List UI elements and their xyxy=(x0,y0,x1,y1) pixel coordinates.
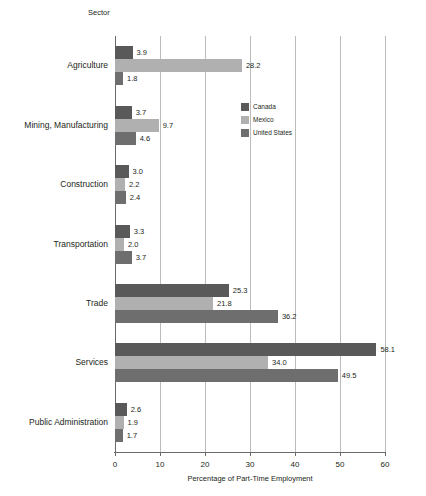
bar-value-label: 2.0 xyxy=(128,238,138,251)
bar-value-label: 49.5 xyxy=(342,369,357,382)
bar-mexico xyxy=(115,416,124,429)
gridline xyxy=(340,36,341,452)
bar-united-states xyxy=(115,191,126,204)
x-axis-tick xyxy=(295,452,296,456)
bar-mexico xyxy=(115,59,242,72)
legend-swatch-icon xyxy=(241,129,249,137)
bar-value-label: 3.7 xyxy=(136,251,146,264)
bar-mexico xyxy=(115,238,124,251)
category-label: Trade xyxy=(86,297,108,310)
legend-item[interactable]: Canada xyxy=(241,101,309,112)
bar-value-label: 3.7 xyxy=(136,106,146,119)
category-label: Mining, Manufacturing xyxy=(24,119,108,132)
x-axis-tick-label: 0 xyxy=(113,460,117,469)
bar-mexico xyxy=(115,356,268,369)
part-time-employment-bar-chart: Sector 0102030405060Percentage of Part-T… xyxy=(0,0,426,496)
bar-value-label: 2.4 xyxy=(130,191,140,204)
bar-mexico xyxy=(115,178,125,191)
x-axis-tick-label: 30 xyxy=(246,460,255,469)
bar-value-label: 9.7 xyxy=(163,119,173,132)
bar-canada xyxy=(115,106,132,119)
bar-canada xyxy=(115,403,127,416)
bar-mexico xyxy=(115,119,159,132)
x-axis-tick-label: 40 xyxy=(291,460,300,469)
x-axis-tick xyxy=(160,452,161,456)
bar-value-label: 36.2 xyxy=(282,310,297,323)
legend-swatch-icon xyxy=(241,103,249,111)
bar-value-label: 3.9 xyxy=(137,46,147,59)
y-axis-title: Sector xyxy=(88,8,110,17)
chart-legend: CanadaMexicoUnited States xyxy=(241,101,309,140)
legend-item[interactable]: Mexico xyxy=(241,114,309,125)
gridline xyxy=(295,36,296,452)
gridline xyxy=(160,36,161,452)
bar-canada xyxy=(115,46,133,59)
bar-value-label: 21.8 xyxy=(217,297,232,310)
bar-value-label: 58.1 xyxy=(380,343,395,356)
bar-value-label: 1.8 xyxy=(127,72,137,85)
bar-united-states xyxy=(115,369,338,382)
bar-canada xyxy=(115,284,229,297)
bar-united-states xyxy=(115,310,278,323)
bar-value-label: 2.6 xyxy=(131,403,141,416)
legend-label: Mexico xyxy=(253,116,274,123)
category-label: Public Administration xyxy=(29,416,108,429)
bar-value-label: 1.9 xyxy=(128,416,138,429)
gridline xyxy=(250,36,251,452)
x-axis-tick-label: 60 xyxy=(381,460,390,469)
bar-value-label: 1.7 xyxy=(127,429,137,442)
category-label: Transportation xyxy=(54,238,109,251)
x-axis-title: Percentage of Part-Time Employment xyxy=(187,474,312,483)
bar-value-label: 34.0 xyxy=(272,356,287,369)
legend-label: Canada xyxy=(253,103,276,110)
plot-area: 0102030405060Percentage of Part-Time Emp… xyxy=(115,36,385,452)
category-label: Services xyxy=(75,356,108,369)
x-axis-tick xyxy=(115,452,116,456)
bar-mexico xyxy=(115,297,213,310)
bar-united-states xyxy=(115,251,132,264)
bar-value-label: 3.3 xyxy=(134,225,144,238)
bar-value-label: 25.3 xyxy=(233,284,248,297)
legend-swatch-icon xyxy=(241,116,249,124)
bar-united-states xyxy=(115,429,123,442)
legend-item[interactable]: United States xyxy=(241,127,309,138)
x-axis-tick-label: 50 xyxy=(336,460,345,469)
bar-canada xyxy=(115,225,130,238)
bar-value-label: 2.2 xyxy=(129,178,139,191)
category-label: Agriculture xyxy=(67,59,108,72)
x-axis-tick xyxy=(250,452,251,456)
bar-united-states xyxy=(115,72,123,85)
legend-label: United States xyxy=(253,129,292,136)
x-axis-tick xyxy=(385,452,386,456)
bar-value-label: 28.2 xyxy=(246,59,261,72)
bar-value-label: 4.6 xyxy=(140,132,150,145)
bar-canada xyxy=(115,343,376,356)
x-axis-tick xyxy=(205,452,206,456)
gridline xyxy=(205,36,206,452)
bar-value-label: 3.0 xyxy=(133,165,143,178)
bar-united-states xyxy=(115,132,136,145)
x-axis-tick xyxy=(340,452,341,456)
gridline xyxy=(385,36,386,452)
category-label: Construction xyxy=(60,178,108,191)
x-axis-tick-label: 10 xyxy=(156,460,165,469)
bar-canada xyxy=(115,165,129,178)
x-axis-tick-label: 20 xyxy=(201,460,210,469)
